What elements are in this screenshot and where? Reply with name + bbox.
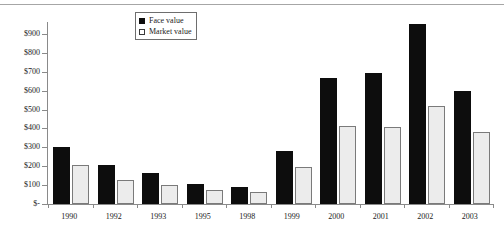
x-axis-tick [315,204,316,208]
x-axis-tick [48,204,49,208]
y-axis-tick-label: $700 [0,68,40,76]
x-axis-tick-label: 2002 [403,212,448,221]
bar-group [229,34,274,204]
bar-market-value [250,192,267,204]
x-axis-tick [182,204,183,208]
y-axis-tick-label: $900 [0,30,40,38]
x-axis-tick-label: 1998 [225,212,270,221]
x-axis-tick [137,204,138,208]
bar-market-value [206,190,223,204]
x-axis-tick-label: 1992 [92,212,137,221]
bar-market-value [161,185,178,204]
y-axis-tick [42,185,47,186]
legend-label-face-value: Face value [149,16,183,25]
bar-group [452,34,497,204]
y-axis-tick-label: $400 [0,124,40,132]
bar-market-value [295,167,312,204]
legend-item-face-value: Face value [139,15,191,26]
x-axis-tick [493,204,494,208]
x-axis-tick-label: 1990 [47,212,92,221]
bar-market-value [339,126,356,204]
y-axis-tick-label: $300 [0,143,40,151]
x-axis-tick-label: 1999 [270,212,315,221]
bar-market-value [117,180,134,204]
bar-face-value [409,24,426,204]
y-axis-tick [42,34,47,35]
y-axis-tick [42,166,47,167]
y-axis-tick-label: $- [0,200,40,208]
legend-swatch-face-value [139,18,145,24]
y-axis-tick [42,147,47,148]
x-axis-tick-label: 1993 [136,212,181,221]
bar-face-value [276,151,293,204]
bar-face-value [187,184,204,204]
bar-group [51,34,96,204]
legend-swatch-market-value [139,29,145,35]
bar-group [185,34,230,204]
bar-group [363,34,408,204]
bar-face-value [320,78,337,204]
x-axis-tick [271,204,272,208]
bar-market-value [384,127,401,204]
y-axis-tick-label: $600 [0,87,40,95]
x-axis-tick [360,204,361,208]
bar-face-value [454,91,471,204]
x-axis-tick [404,204,405,208]
x-axis-tick [93,204,94,208]
legend-label-market-value: Market value [149,27,191,36]
bar-market-value [428,106,445,204]
bar-face-value [365,73,382,204]
y-axis-tick [42,110,47,111]
bar-group [318,34,363,204]
bar-face-value [98,165,115,204]
y-axis-tick [42,53,47,54]
x-axis-tick-label: 2003 [448,212,493,221]
legend-item-market-value: Market value [139,26,191,37]
x-axis-tick [449,204,450,208]
y-axis-tick [42,128,47,129]
x-axis-tick-label: 1995 [181,212,226,221]
y-axis-tick-label: $500 [0,106,40,114]
bar-market-value [473,132,490,204]
y-axis-tick-label: $200 [0,162,40,170]
x-axis-tick [226,204,227,208]
bar-group [140,34,185,204]
x-axis-tick-label: 2000 [314,212,359,221]
bar-face-value [53,147,70,204]
bar-group [407,34,452,204]
chart-legend: Face value Market value [135,12,197,40]
y-axis-tick-label: $100 [0,181,40,189]
bar-face-value [231,187,248,204]
y-axis-tick [42,72,47,73]
y-axis-tick-label: $800 [0,49,40,57]
bar-market-value [72,165,89,204]
bar-chart: $-$100$200$300$400$500$600$700$800$900 1… [0,0,504,239]
y-axis-tick [42,204,47,205]
bar-face-value [142,173,159,204]
y-axis-tick [42,91,47,92]
bar-group [96,34,141,204]
x-axis-tick-label: 2001 [359,212,404,221]
bar-group [274,34,319,204]
